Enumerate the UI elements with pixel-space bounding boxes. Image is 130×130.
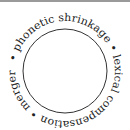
- cycle-diagram: • phonetic shrinkage • lexical compensat…: [0, 0, 130, 130]
- cycle-circle: [23, 29, 107, 113]
